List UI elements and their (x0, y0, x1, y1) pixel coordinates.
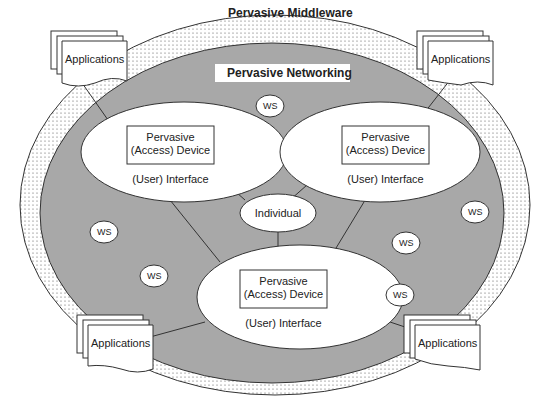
ws-label: WS (263, 101, 278, 111)
device-right-interface: (User) Interface (342, 173, 429, 186)
device-left-label: Pervasive(Access) Device (127, 131, 214, 157)
device-right-label: Pervasive(Access) Device (342, 131, 429, 157)
ws-label: WS (399, 238, 414, 248)
applications-label-top-right: Applications (431, 53, 490, 65)
applications-label-bottom-left: Applications (91, 337, 150, 349)
ws-label: WS (97, 227, 112, 237)
device-left-interface: (User) Interface (127, 173, 214, 186)
networking-label: Pervasive Networking (227, 66, 352, 80)
applications-label-bottom-right: Applications (418, 337, 477, 349)
device-bottom-interface: (User) Interface (240, 317, 327, 330)
middleware-label: Pervasive Middleware (228, 6, 353, 20)
ws-label: WS (147, 271, 162, 281)
individual-label: Individual (248, 207, 308, 220)
applications-label-top-left: Applications (65, 53, 124, 65)
ws-label: WS (468, 207, 483, 217)
ws-label: WS (393, 290, 408, 300)
device-bottom-label: Pervasive(Access) Device (240, 275, 327, 301)
